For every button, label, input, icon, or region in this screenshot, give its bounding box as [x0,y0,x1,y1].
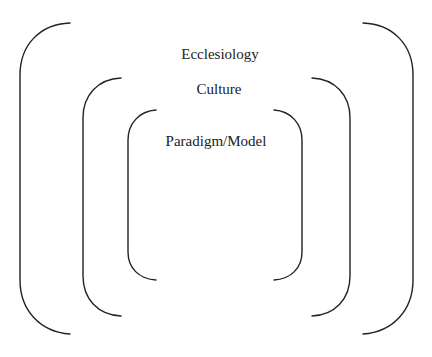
outer-left-bracket [20,23,70,334]
layer-label-paradigm-model: Paradigm/Model [166,133,267,150]
outer-right-bracket [363,23,413,334]
middle-right-bracket [312,78,350,316]
inner-right-bracket [274,110,302,280]
layer-label-culture: Culture [197,81,242,98]
inner-left-bracket [128,110,156,280]
layer-label-ecclesiology: Ecclesiology [181,46,258,63]
middle-left-bracket [83,78,121,316]
